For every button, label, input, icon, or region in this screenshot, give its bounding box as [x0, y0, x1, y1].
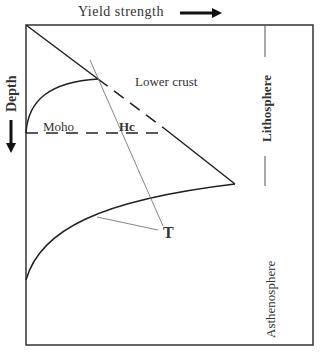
mantle-ductile-curve — [26, 184, 235, 280]
hc-label: Hc — [119, 119, 135, 134]
brittle-line-lower — [165, 129, 235, 184]
t-leader-2 — [97, 217, 158, 230]
yield-strength-envelope-diagram: Yield strength Depth Lower crust Moho Hc… — [0, 0, 320, 354]
y-axis-label: Depth — [4, 75, 19, 112]
right-arrow-icon — [180, 8, 222, 18]
t-label: T — [163, 224, 174, 241]
asthenosphere-label: Asthenosphere — [263, 261, 278, 338]
lithosphere-label: Lithosphere — [259, 75, 274, 142]
brittle-line-upper — [26, 25, 98, 79]
lower-crust-label: Lower crust — [135, 74, 198, 89]
moho-label: Moho — [43, 119, 74, 134]
down-arrow-icon — [6, 120, 16, 153]
x-axis-label: Yield strength — [78, 4, 164, 19]
